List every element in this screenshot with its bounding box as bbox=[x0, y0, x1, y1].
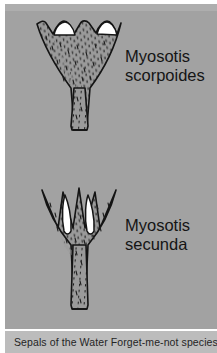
species-label-scorpoides: Myosotis scorpoides bbox=[125, 47, 205, 85]
species-label-secunda: Myosotis secunda bbox=[125, 216, 190, 254]
figure-caption-text: Sepals of the Water Forget-me-not specie… bbox=[14, 334, 217, 350]
species-epithet-scorpoides: scorpoides bbox=[125, 66, 205, 85]
figure-caption-band: Sepals of the Water Forget-me-not specie… bbox=[5, 331, 217, 353]
species-epithet-secunda: secunda bbox=[125, 235, 190, 254]
flower-diagram-secunda bbox=[30, 183, 128, 318]
species-genus-secunda: Myosotis bbox=[125, 216, 190, 235]
flower-diagram-scorpoides bbox=[30, 14, 128, 139]
figure-root: Myosotis scorpoides bbox=[0, 0, 217, 353]
species-genus-scorpoides: Myosotis bbox=[125, 47, 205, 66]
plate-top-sheen bbox=[5, 4, 217, 11]
